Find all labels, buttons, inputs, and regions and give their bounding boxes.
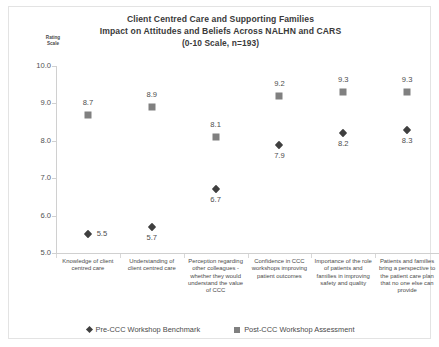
legend-item-post: Post-CCC Workshop Assessment — [234, 325, 354, 334]
data-point-pre — [275, 140, 283, 148]
x-category-label: Confidence in CCC workshops improving pa… — [247, 258, 311, 320]
data-value-label: 9.3 — [402, 76, 413, 84]
y-tick-label: 10.0 — [23, 62, 51, 70]
y-tick-label: 8.0 — [23, 137, 51, 145]
plot-area: 5.55.76.77.98.28.38.78.98.19.29.39.3 — [56, 66, 438, 253]
x-category-label: Perception regarding other colleagues - … — [184, 258, 248, 320]
y-tick-label: 6.0 — [23, 212, 51, 220]
data-value-label: 8.9 — [146, 91, 157, 99]
x-category-label: Patients and families bring a perspectiv… — [375, 258, 439, 320]
data-value-label: 5.5 — [97, 230, 108, 238]
data-value-label: 9.3 — [338, 76, 349, 84]
data-value-label: 8.1 — [210, 121, 221, 129]
data-value-label: 5.7 — [146, 234, 157, 242]
data-point-post — [148, 104, 155, 111]
chart-title: Client Centred Care and Supporting Famil… — [9, 13, 432, 25]
data-value-label: 8.7 — [83, 99, 94, 107]
x-category-label: Importance of the role of patients and f… — [311, 258, 375, 320]
data-value-label: 9.2 — [274, 80, 285, 88]
chart-container: Client Centred Care and Supporting Famil… — [8, 6, 431, 339]
data-point-post — [84, 111, 91, 118]
data-point-post — [276, 92, 283, 99]
diamond-marker-icon — [85, 326, 92, 333]
data-point-post — [212, 134, 219, 141]
y-tick-label: 9.0 — [23, 99, 51, 107]
data-point-post — [404, 89, 411, 96]
data-value-label: 7.9 — [274, 152, 285, 160]
data-point-pre — [339, 129, 347, 137]
x-category-label: Knowledge of client centred care — [56, 258, 120, 320]
data-value-label: 8.3 — [402, 137, 413, 145]
square-marker-icon — [234, 327, 240, 333]
legend-label-post: Post-CCC Workshop Assessment — [244, 325, 354, 334]
legend-label-pre: Pre-CCC Workshop Benchmark — [96, 325, 201, 334]
x-category-label: Understanding of client centred care — [120, 258, 184, 320]
legend-item-pre: Pre-CCC Workshop Benchmark — [87, 325, 201, 334]
y-tick-label: 7.0 — [23, 174, 51, 182]
data-value-label: 8.2 — [338, 140, 349, 148]
x-axis-category-labels: Knowledge of client centred careUndersta… — [56, 258, 439, 320]
data-point-pre — [403, 125, 411, 133]
y-axis-title-line2: Scale — [31, 41, 75, 47]
data-point-pre — [84, 230, 92, 238]
data-point-pre — [211, 185, 219, 193]
data-point-post — [340, 89, 347, 96]
data-point-pre — [148, 223, 156, 231]
y-tick-label: 5.0 — [23, 249, 51, 257]
data-value-label: 6.7 — [210, 196, 221, 204]
y-axis-title: Rating Scale — [31, 35, 75, 46]
chart-legend: Pre-CCC Workshop Benchmark Post-CCC Work… — [9, 325, 432, 334]
